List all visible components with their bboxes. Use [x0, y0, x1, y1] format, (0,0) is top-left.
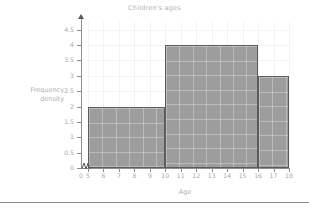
chart-title: Children's ages: [0, 4, 309, 12]
y-axis-tick: [77, 122, 82, 123]
y-axis-tick: [77, 76, 82, 77]
y-axis-tick: [77, 60, 82, 61]
x-axis-tick-label: 6: [96, 172, 110, 179]
y-axis-tick-label: 0: [52, 164, 74, 171]
x-axis-tick-label: 7: [112, 172, 126, 179]
y-axis-tick-labels: 00.511.522.533.544.5: [50, 0, 74, 211]
bottom-divider: [0, 202, 309, 203]
y-axis-tick-label: 4.5: [52, 26, 74, 33]
y-axis-tick-label: 0.5: [52, 149, 74, 156]
y-axis-tick-label: 3.5: [52, 56, 74, 63]
x-axis-tick-label: 12: [189, 172, 203, 179]
y-axis-tick-label: 2: [52, 103, 74, 110]
y-axis-tick: [77, 45, 82, 46]
y-axis-tick: [77, 30, 82, 31]
y-axis-tick-label: 2.5: [52, 87, 74, 94]
x-axis-tick-label: 16: [251, 172, 265, 179]
x-axis-tick-label: 10: [158, 172, 172, 179]
y-axis-tick: [77, 107, 82, 108]
y-axis-arrow-icon: [78, 14, 84, 19]
x-axis-tick-label: 9: [143, 172, 157, 179]
histogram-bar: [258, 76, 289, 168]
histogram-bar: [165, 45, 258, 168]
histogram-bar: [88, 107, 165, 168]
y-axis-tick-label: 1.5: [52, 118, 74, 125]
x-axis-tick-label: 14: [220, 172, 234, 179]
y-axis-tick-label: 1: [52, 133, 74, 140]
y-axis-tick: [77, 91, 82, 92]
axis-break-icon: [82, 160, 91, 170]
x-axis-tick-label: 8: [127, 172, 141, 179]
y-axis-tick-label: 4: [52, 41, 74, 48]
y-axis-tick: [77, 153, 82, 154]
x-axis-tick-label: 5: [81, 172, 95, 179]
y-axis-tick-label: 3: [52, 72, 74, 79]
x-axis-tick-label: 13: [205, 172, 219, 179]
y-axis-tick: [77, 137, 82, 138]
x-axis-tick-label: 17: [267, 172, 281, 179]
x-axis-tick-label: 11: [174, 172, 188, 179]
x-axis-tick-label: 18: [282, 172, 296, 179]
gridline-vertical: [289, 22, 290, 168]
x-axis-title: Age: [81, 188, 289, 196]
plot-area: [88, 22, 289, 168]
histogram-figure: Children's ages Frequency density 00.511…: [0, 0, 309, 211]
x-axis-tick-label: 15: [236, 172, 250, 179]
y-axis-line: [81, 18, 82, 168]
